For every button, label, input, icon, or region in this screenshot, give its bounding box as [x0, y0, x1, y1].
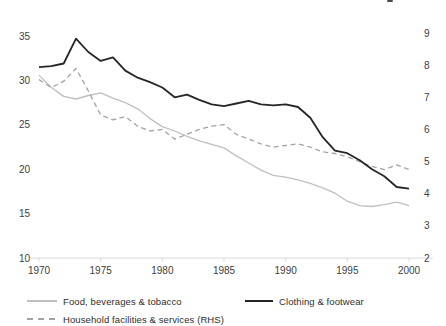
y-axis-right-label: 2 — [424, 253, 430, 264]
legend-line-clothing-icon — [245, 300, 273, 302]
x-axis-label: 1970 — [28, 265, 51, 276]
series-line-household-facilities-services-rhs — [39, 68, 409, 169]
x-axis-label: 1995 — [336, 265, 359, 276]
legend-item-clothing: Clothing & footwear — [245, 295, 364, 307]
legend-line-household-icon — [27, 318, 57, 320]
x-axis-label: 2000 — [398, 265, 421, 276]
y-axis-left-label: 20 — [19, 164, 31, 175]
legend-line-food-icon — [27, 300, 57, 301]
y-axis-right-label: 9 — [424, 28, 430, 39]
plot-area: 1970197519801985199019952000101520253035… — [0, 0, 446, 326]
y-axis-left-label: 15 — [19, 208, 31, 219]
x-axis-label: 1980 — [151, 265, 174, 276]
x-axis-label: 1990 — [275, 265, 298, 276]
x-axis-label: 1975 — [90, 265, 113, 276]
y-axis-right-label: 8 — [424, 60, 430, 71]
legend-label-clothing: Clothing & footwear — [279, 296, 364, 307]
legend-label-food: Food, beverages & tobacco — [63, 296, 182, 307]
y-axis-right-label: 7 — [424, 92, 430, 103]
y-axis-left-label: 10 — [19, 253, 31, 264]
series-line-food-beverages-tobacco — [39, 75, 409, 206]
y-axis-right-label: 3 — [424, 220, 430, 231]
series-line-clothing-footwear — [39, 39, 409, 189]
y-axis-left-label: 30 — [19, 75, 31, 86]
y-axis-right-label: 4 — [424, 188, 430, 199]
y-axis-right-label: 6 — [424, 124, 430, 135]
y-axis-left-label: 25 — [19, 119, 31, 130]
legend-item-food: Food, beverages & tobacco — [27, 295, 182, 307]
y-axis-left-label: 35 — [19, 31, 31, 42]
x-axis-label: 1985 — [213, 265, 236, 276]
legend-item-household: Household facilities & services (RHS) — [27, 313, 224, 325]
y-axis-right-label: 5 — [424, 156, 430, 167]
legend-label-household: Household facilities & services (RHS) — [63, 314, 224, 325]
chart-screenshot: 1970197519801985199019952000101520253035… — [0, 0, 446, 326]
